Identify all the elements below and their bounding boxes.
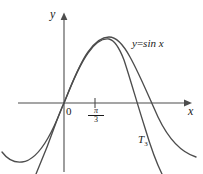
y-axis-label: y [50,8,55,20]
taylor-polynomial-figure: y x 0 π 3 y=sin x T3 [0,0,203,174]
sine-curve-label: y=sin x [132,38,164,49]
taylor-label-subscript: 3 [144,140,148,148]
origin-label: 0 [66,106,72,117]
x-tick-label-pi-over-3: π 3 [88,107,104,125]
sine-label-rhs: sin x [143,37,163,49]
tick-denominator: 3 [88,116,104,124]
plot-area [0,0,203,174]
taylor-curve-label: T3 [138,134,148,148]
y-axis-arrowhead [61,13,68,21]
sine-curve [2,37,196,162]
x-axis-label: x [188,105,193,117]
